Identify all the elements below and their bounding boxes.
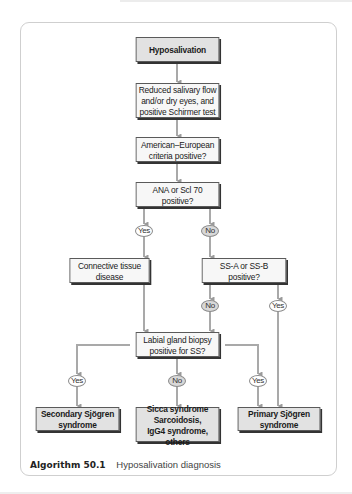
label-biopsy-no: No: [168, 375, 186, 387]
node-ana-scl70: ANA or Scl 70 positive?: [136, 182, 220, 207]
node-hyposalivation-text: Hyposalivation: [149, 44, 206, 55]
connector-biopsy-left-branch: [77, 345, 130, 374]
node-connective-tissue-disease-text: Connective tissue disease: [78, 260, 141, 282]
node-secondary-sjogren-text: Secondary Sjögren syndrome: [41, 408, 114, 430]
node-primary-sjogren: Primary Sjögren syndrome: [238, 407, 321, 431]
node-ssa-ssb-text: SS-A or SS-B positive?: [220, 260, 269, 282]
node-american-european-criteria: American–European criteria positive?: [136, 137, 220, 162]
line: Labial gland biopsy: [143, 334, 211, 345]
node-ana-scl70-text: ANA or Scl 70 positive?: [153, 184, 203, 206]
line: positive for SS?: [150, 345, 206, 356]
label-ssa-no: No: [201, 300, 219, 312]
line: IgG4 syndrome, others: [147, 425, 208, 447]
node-hyposalivation: Hyposalivation: [136, 37, 220, 62]
node-connective-tissue-disease: Connective tissue disease: [69, 258, 149, 283]
line: syndrome: [260, 419, 299, 430]
line: ANA or Scl 70: [153, 184, 203, 195]
line: syndrome: [58, 419, 97, 430]
line: and/or dry eyes, and: [141, 95, 214, 106]
line: positive Schirmer test: [139, 106, 215, 117]
line: Reduced salivary flow: [139, 84, 217, 95]
label-ssa-yes: Yes: [269, 300, 287, 312]
node-sicca-syndrome-text: Sicca syndrome Sarcoidosis, IgG4 syndrom…: [137, 403, 219, 447]
node-american-european-criteria-text: American–European criteria positive?: [141, 139, 214, 161]
line: criteria positive?: [149, 150, 206, 161]
line: Sicca syndrome: [147, 403, 209, 414]
node-reduced-salivary-flow: Reduced salivary flow and/or dry eyes, a…: [136, 83, 220, 118]
caption-text: Hyposalivation diagnosis: [116, 459, 221, 470]
node-ssa-ssb: SS-A or SS-B positive?: [202, 258, 286, 283]
node-labial-gland-biopsy-text: Labial gland biopsy positive for SS?: [143, 334, 211, 356]
label-ana-no: No: [201, 225, 219, 237]
node-sicca-syndrome: Sicca syndrome Sarcoidosis, IgG4 syndrom…: [136, 407, 220, 442]
line: positive?: [228, 271, 259, 282]
line: Connective tissue: [78, 260, 141, 271]
line: disease: [96, 271, 124, 282]
node-secondary-sjogren: Secondary Sjögren syndrome: [36, 407, 120, 431]
line: Primary Sjögren: [248, 408, 310, 419]
node-primary-sjogren-text: Primary Sjögren syndrome: [248, 408, 310, 430]
line: Secondary Sjögren: [41, 408, 114, 419]
connector-biopsy-right-branch: [225, 345, 258, 374]
line: positive?: [162, 195, 193, 206]
figure-caption: Algorithm 50.1 Hyposalivation diagnosis: [30, 459, 221, 470]
caption-label: Algorithm 50.1: [30, 460, 106, 470]
label-ana-yes: Yes: [135, 225, 153, 237]
line: American–European: [141, 139, 214, 150]
node-reduced-salivary-flow-text: Reduced salivary flow and/or dry eyes, a…: [139, 84, 217, 117]
label-biopsy-yes-secondary: Yes: [68, 375, 86, 387]
node-labial-gland-biopsy: Labial gland biopsy positive for SS?: [136, 332, 220, 357]
line: SS-A or SS-B: [220, 260, 269, 271]
label-biopsy-yes-primary: Yes: [249, 375, 267, 387]
line: Sarcoidosis,: [154, 414, 202, 425]
